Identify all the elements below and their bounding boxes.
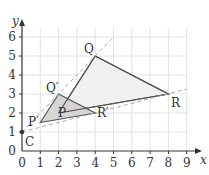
y-tick-3: 3 (8, 87, 16, 101)
y-tick-6: 6 (8, 30, 16, 44)
x-tick-9: 9 (183, 156, 191, 170)
y-axis-arrow-icon (19, 19, 25, 26)
label-p-prime: P′ (28, 115, 39, 129)
x-tick-6: 6 (128, 156, 136, 170)
y-tick-4: 4 (8, 68, 16, 82)
label-q-prime: Q′ (46, 81, 59, 95)
y-tick-labels: 0 1 2 3 4 5 6 (8, 30, 16, 158)
centre-point-icon (20, 130, 24, 134)
x-tick-3: 3 (73, 156, 81, 170)
label-p: P (58, 106, 66, 120)
x-tick-5: 5 (110, 156, 118, 170)
label-r-prime: R′ (97, 106, 109, 120)
x-tick-4: 4 (91, 156, 99, 170)
x-tick-2: 2 (55, 156, 63, 170)
enlargement-diagram: 0 1 2 3 4 5 6 7 8 9 x 0 1 2 3 4 5 6 y C … (0, 0, 209, 175)
label-q: Q (84, 42, 94, 56)
label-r: R (171, 96, 181, 110)
x-tick-1: 1 (36, 156, 44, 170)
x-tick-labels: 0 1 2 3 4 5 6 7 8 9 (18, 156, 190, 170)
y-tick-0: 0 (8, 144, 16, 158)
label-c: C (25, 135, 34, 149)
y-tick-2: 2 (8, 106, 16, 120)
x-tick-7: 7 (146, 156, 154, 170)
x-tick-0: 0 (18, 156, 26, 170)
y-tick-5: 5 (8, 49, 16, 63)
y-tick-1: 1 (8, 125, 16, 139)
y-axis-label: y (11, 14, 19, 28)
x-axis-label: x (200, 153, 207, 167)
x-tick-8: 8 (165, 156, 173, 170)
